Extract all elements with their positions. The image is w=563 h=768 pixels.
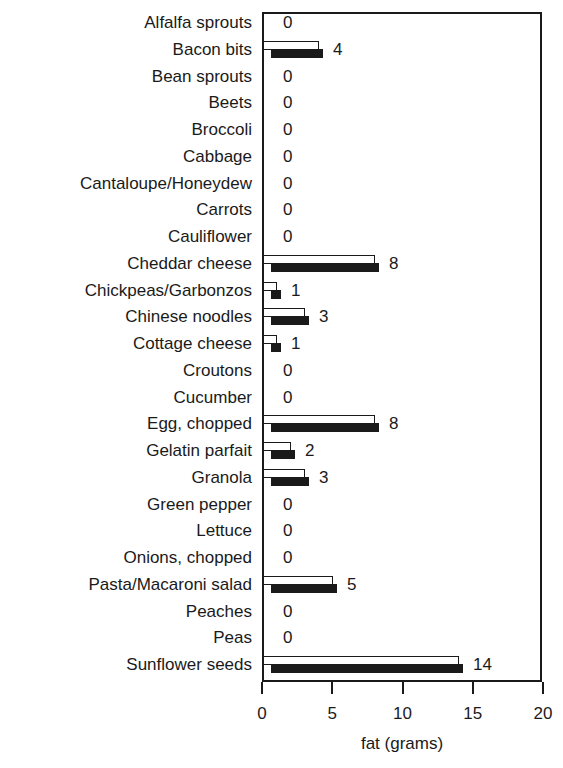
x-tick: [261, 682, 263, 694]
bar: [263, 41, 319, 50]
bar-shadow: [271, 343, 281, 352]
bar: [263, 576, 333, 585]
value-label: 0: [283, 200, 292, 220]
category-label: Alfalfa sprouts: [144, 13, 252, 33]
category-label: Bacon bits: [173, 40, 252, 60]
category-label: Cheddar cheese: [127, 254, 252, 274]
value-label: 0: [283, 495, 292, 515]
x-tick: [472, 682, 474, 694]
category-label: Pasta/Macaroni salad: [89, 575, 252, 595]
bar-shadow: [271, 584, 337, 593]
value-label: 8: [389, 254, 398, 274]
bar-shadow: [271, 49, 323, 58]
x-tick: [402, 682, 404, 694]
category-label: Beets: [209, 93, 252, 113]
category-label: Lettuce: [196, 521, 252, 541]
x-tick-label: 5: [312, 704, 352, 724]
bar: [263, 469, 305, 478]
category-label: Granola: [192, 468, 252, 488]
value-label: 1: [291, 334, 300, 354]
category-label: Gelatin parfait: [146, 441, 252, 461]
bar-shadow: [271, 477, 309, 486]
category-label: Egg, chopped: [147, 414, 252, 434]
bar-shadow: [271, 316, 309, 325]
category-label: Peaches: [186, 602, 252, 622]
category-label: Green pepper: [147, 495, 252, 515]
category-label: Bean sprouts: [152, 67, 252, 87]
bar: [263, 442, 291, 451]
category-label: Peas: [213, 628, 252, 648]
bar: [263, 656, 459, 665]
value-label: 2: [305, 441, 314, 461]
bar-shadow: [271, 423, 379, 432]
x-tick: [542, 682, 544, 694]
value-label: 1: [291, 281, 300, 301]
value-label: 3: [319, 307, 328, 327]
x-tick: [331, 682, 333, 694]
value-label: 0: [283, 147, 292, 167]
value-label: 0: [283, 548, 292, 568]
bar-shadow: [271, 263, 379, 272]
value-label: 0: [283, 602, 292, 622]
bar-shadow: [271, 290, 281, 299]
x-tick-label: 0: [242, 704, 282, 724]
x-tick-label: 15: [453, 704, 493, 724]
category-label: Cucumber: [174, 388, 252, 408]
category-label: Chickpeas/Garbonzos: [85, 281, 252, 301]
category-label: Cottage cheese: [133, 334, 252, 354]
value-label: 0: [283, 93, 292, 113]
category-label: Cabbage: [183, 147, 252, 167]
value-label: 0: [283, 13, 292, 33]
value-label: 0: [283, 174, 292, 194]
category-label: Chinese noodles: [125, 307, 252, 327]
value-label: 0: [283, 120, 292, 140]
category-label: Onions, chopped: [123, 548, 252, 568]
value-label: 14: [473, 655, 492, 675]
category-label: Broccoli: [192, 120, 252, 140]
value-label: 4: [333, 40, 342, 60]
value-label: 0: [283, 521, 292, 541]
x-tick-label: 20: [523, 704, 563, 724]
value-label: 0: [283, 388, 292, 408]
value-label: 3: [319, 468, 328, 488]
x-axis-title: fat (grams): [322, 734, 482, 754]
category-label: Carrots: [196, 200, 252, 220]
bar: [263, 308, 305, 317]
category-label: Cantaloupe/Honeydew: [80, 174, 252, 194]
value-label: 0: [283, 628, 292, 648]
bar: [263, 282, 277, 291]
bar: [263, 255, 375, 264]
bar: [263, 415, 375, 424]
category-label: Croutons: [183, 361, 252, 381]
bar-shadow: [271, 664, 463, 673]
value-label: 5: [347, 575, 356, 595]
value-label: 0: [283, 227, 292, 247]
x-tick-label: 10: [383, 704, 423, 724]
value-label: 0: [283, 361, 292, 381]
fat-bar-chart: Alfalfa sprouts0Bacon bits4Bean sprouts0…: [0, 0, 563, 768]
value-label: 8: [389, 414, 398, 434]
category-label: Sunflower seeds: [126, 655, 252, 675]
value-label: 0: [283, 67, 292, 87]
bar-shadow: [271, 450, 295, 459]
bar: [263, 335, 277, 344]
category-label: Cauliflower: [168, 227, 252, 247]
